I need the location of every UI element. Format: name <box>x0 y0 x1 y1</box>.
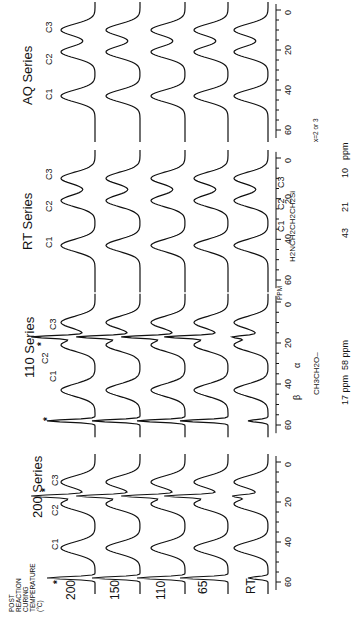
peak-label-c2: C2 <box>40 352 50 364</box>
structure-label-beta: β <box>292 395 302 400</box>
spectrum-trace <box>164 454 228 594</box>
axis-tick-label: 40 <box>283 379 293 389</box>
structure-label-c1: C1 <box>276 220 286 232</box>
marker-asterisk: * <box>36 342 47 346</box>
structure-note: x=2 or 3 <box>312 118 319 142</box>
axis-caption: POST REACTION CURING TEMPERATURE (°C) <box>8 563 43 612</box>
shift-unit-ppm: ppm <box>340 142 350 160</box>
peak-label-c3: C3 <box>44 21 54 33</box>
spectrum-trace <box>164 294 228 438</box>
axis-tick-label: 0 <box>283 10 293 15</box>
shift-58ppm: 58 ppm <box>340 340 350 370</box>
structure-formula-propyl: H2NCH2CH2CH2Si <box>288 191 297 262</box>
shift-21: 21 <box>340 202 350 212</box>
nmr-spectra-plot <box>0 0 363 619</box>
axis-tick-label: 60 <box>283 275 293 285</box>
axis-tick-label: 20 <box>283 497 293 507</box>
spectrum-trace <box>61 2 95 142</box>
axis-tick-label: 20 <box>283 338 293 348</box>
series-title-200: 200 Series <box>30 456 45 518</box>
peak-label-c1: C1 <box>50 538 60 550</box>
shift-17ppm: 17 ppm <box>340 375 350 405</box>
series-title-110: 110 Series <box>22 317 37 378</box>
axis-unit-small: PPM <box>276 286 283 300</box>
axis-tick-label: 0 <box>283 158 293 163</box>
spectrum-trace <box>121 294 185 438</box>
spectrum-trace <box>121 454 185 594</box>
series-title-aq: AQ Series <box>20 46 35 105</box>
shift-10: 10 <box>340 168 350 178</box>
spectrum-trace <box>194 150 228 292</box>
axis-tick-label: 60 <box>283 420 293 430</box>
structure-formula-ethoxy: CH3CH2O– <box>312 352 321 395</box>
spectrum-trace <box>194 2 228 142</box>
spectrum-trace <box>76 294 140 438</box>
row-label-110: 110 <box>154 581 168 600</box>
peak-label-c1: C1 <box>44 88 54 100</box>
spectrum-trace <box>76 454 140 594</box>
peak-label-c1: C1 <box>44 236 54 248</box>
axis-tick-label: 0 <box>283 302 293 307</box>
marker-asterisk: * <box>42 417 53 421</box>
axis-tick-label: 0 <box>283 462 293 467</box>
peak-label-c3: C3 <box>44 168 54 180</box>
structure-label-c2: C2 <box>276 198 286 210</box>
shift-43: 43 <box>340 228 350 238</box>
peak-label-c3: C3 <box>48 318 58 330</box>
spectrum-trace <box>232 454 268 594</box>
row-label-rt: RT <box>244 578 258 594</box>
axis-tick-label: 40 <box>283 537 293 547</box>
spectrum-trace <box>232 294 268 438</box>
row-label-150: 150 <box>108 580 122 600</box>
row-label-65: 65 <box>196 581 210 594</box>
marker-asterisk: * <box>40 488 51 492</box>
axis-tick-label: 60 <box>283 125 293 135</box>
peak-label-c2: C2 <box>50 504 60 516</box>
series-title-rt: RT Series <box>20 193 35 250</box>
structure-label-alpha: α <box>292 363 302 368</box>
spectrum-trace <box>106 2 140 142</box>
peak-label-c2: C2 <box>44 200 54 212</box>
marker-asterisk: * <box>52 580 63 584</box>
peak-label-c1: C1 <box>48 370 58 382</box>
spectrum-trace <box>106 150 140 292</box>
spectrum-trace <box>31 294 95 438</box>
spectrum-trace <box>234 150 268 292</box>
spectrum-trace <box>61 150 95 292</box>
axis-tick-label: 60 <box>283 577 293 587</box>
peak-label-c2: C2 <box>44 53 54 65</box>
axis-tick-label: 40 <box>283 85 293 95</box>
axis-tick-label: 20 <box>283 45 293 55</box>
spectrum-trace <box>234 2 268 142</box>
spectrum-trace <box>151 150 185 292</box>
spectrum-trace <box>151 2 185 142</box>
row-label-200: 200 <box>64 580 78 600</box>
peak-label-c3: C3 <box>50 474 60 486</box>
structure-label-c3: C3 <box>276 176 286 188</box>
